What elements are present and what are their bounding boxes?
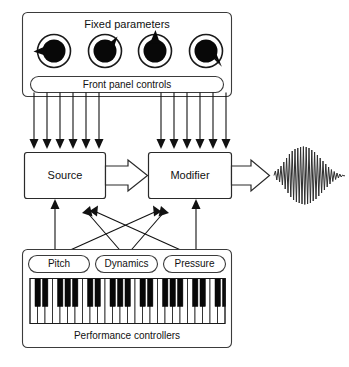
modifier-to-output-arrow xyxy=(232,160,270,191)
control-lines-to-source xyxy=(30,93,104,150)
control-line-m6 xyxy=(222,93,231,150)
routing-pressure-to-modifier xyxy=(192,199,201,255)
performance-routing-arrows xyxy=(51,199,201,256)
controller-pills: Pitch Dynamics Pressure xyxy=(29,256,226,273)
source-block[interactable]: Source xyxy=(25,153,106,199)
controller-pitch-label: Pitch xyxy=(48,258,70,269)
control-line-m2 xyxy=(170,93,179,150)
controller-dynamics[interactable]: Dynamics xyxy=(96,256,158,273)
knob-4[interactable] xyxy=(190,35,223,68)
output-waveform xyxy=(274,147,345,205)
controller-dynamics-label: Dynamics xyxy=(105,258,149,269)
routing-pitch-to-source xyxy=(51,199,60,255)
controller-pitch[interactable]: Pitch xyxy=(29,256,90,273)
controller-pressure-label: Pressure xyxy=(174,258,214,269)
control-line-s6 xyxy=(95,93,104,150)
routing-pitch-to-modifier xyxy=(57,206,162,257)
control-line-s2 xyxy=(43,93,52,150)
source-label: Source xyxy=(48,169,83,181)
modifier-block[interactable]: Modifier xyxy=(149,153,232,199)
fixed-parameters-title: Fixed parameters xyxy=(84,18,170,30)
routing-dynamics-to-source xyxy=(82,206,125,256)
routing-pressure-to-source xyxy=(90,206,195,257)
routing-dynamics-to-modifier xyxy=(126,206,169,256)
control-line-m3 xyxy=(183,93,192,150)
modifier-label: Modifier xyxy=(170,169,209,181)
source-to-modifier-arrow xyxy=(106,160,148,191)
controller-pressure[interactable]: Pressure xyxy=(164,256,226,273)
control-line-m5 xyxy=(209,93,218,150)
control-line-s4 xyxy=(69,93,78,150)
control-line-m1 xyxy=(157,93,166,150)
control-line-s5 xyxy=(82,93,91,150)
piano-keyboard[interactable] xyxy=(30,279,226,324)
control-line-s3 xyxy=(56,93,65,150)
diagram-canvas: Fixed parameters xyxy=(0,0,349,367)
control-line-m4 xyxy=(196,93,205,150)
performance-controllers-label: Performance controllers xyxy=(74,330,180,341)
knob-2[interactable] xyxy=(89,35,122,68)
front-panel-controls-bar[interactable]: Front panel controls xyxy=(31,77,224,93)
front-panel-controls-label: Front panel controls xyxy=(83,79,171,90)
control-line-s1 xyxy=(30,93,39,150)
synthesizer-signal-flow-diagram: Fixed parameters xyxy=(0,0,349,367)
control-lines-to-modifier xyxy=(157,93,231,150)
